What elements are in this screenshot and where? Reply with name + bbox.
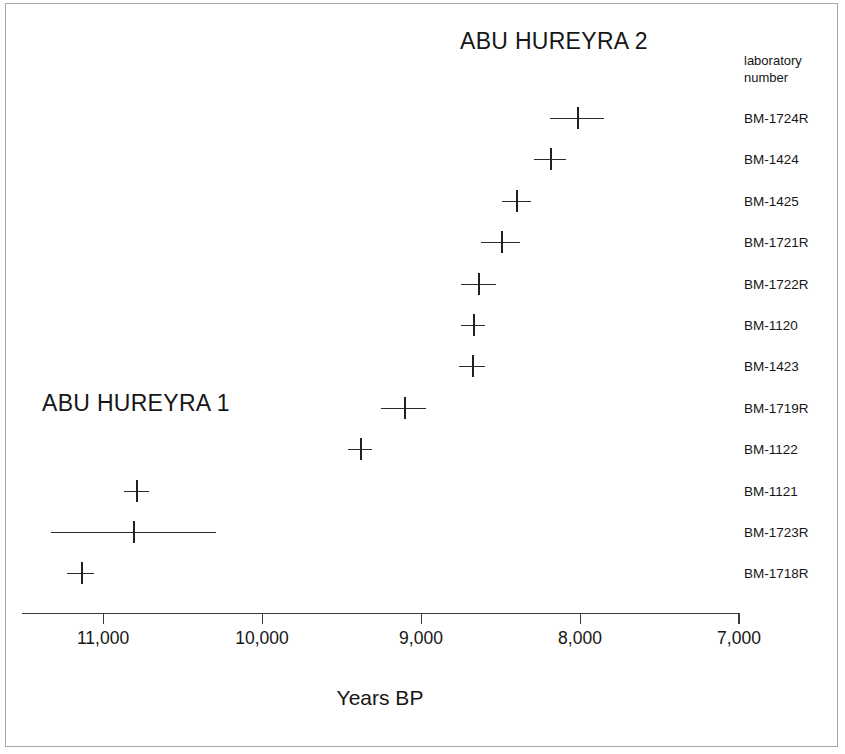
laboratory-number-label: BM-1121 bbox=[744, 483, 798, 498]
laboratory-number-label: BM-1722R bbox=[744, 276, 809, 291]
date-centre-tick bbox=[516, 190, 518, 212]
laboratory-number-label: BM-1718R bbox=[744, 566, 809, 581]
x-axis-tick bbox=[739, 613, 740, 624]
laboratory-number-label: BM-1120 bbox=[744, 318, 798, 333]
x-axis-tick-label: 11,000 bbox=[77, 628, 129, 649]
date-centre-tick bbox=[577, 107, 579, 129]
column-header-line-2: number bbox=[744, 69, 802, 86]
date-centre-tick bbox=[360, 438, 362, 460]
date-centre-tick bbox=[478, 273, 480, 295]
laboratory-number-column-header: laboratory number bbox=[744, 52, 802, 86]
laboratory-number-label: BM-1423 bbox=[744, 359, 799, 374]
plot-area: ABU HUREYRA 2 ABU HUREYRA 1 laboratory n… bbox=[0, 0, 845, 754]
date-centre-tick bbox=[81, 562, 83, 584]
x-axis-tick bbox=[103, 613, 104, 624]
x-axis-title: Years BP bbox=[0, 686, 760, 710]
x-axis-tick-label: 8,000 bbox=[558, 628, 602, 649]
laboratory-number-label: BM-1723R bbox=[744, 525, 809, 540]
date-centre-tick bbox=[136, 480, 138, 502]
column-header-line-1: laboratory bbox=[744, 52, 802, 69]
laboratory-number-label: BM-1724R bbox=[744, 111, 809, 126]
date-centre-tick bbox=[133, 521, 135, 543]
date-centre-tick bbox=[550, 148, 552, 170]
x-axis-tick-label: 7,000 bbox=[717, 628, 761, 649]
x-axis-tick-label: 10,000 bbox=[235, 628, 289, 649]
laboratory-number-label: BM-1425 bbox=[744, 193, 799, 208]
x-axis-tick bbox=[262, 613, 263, 624]
laboratory-number-label: BM-1721R bbox=[744, 235, 809, 250]
laboratory-number-label: BM-1424 bbox=[744, 152, 799, 167]
radiocarbon-date-figure: ABU HUREYRA 2 ABU HUREYRA 1 laboratory n… bbox=[0, 0, 845, 754]
x-axis-tick bbox=[580, 613, 581, 624]
phase-label-abu-hureyra-2: ABU HUREYRA 2 bbox=[460, 28, 648, 55]
date-centre-tick bbox=[404, 397, 406, 419]
laboratory-number-label: BM-1719R bbox=[744, 400, 809, 415]
date-centre-tick bbox=[501, 231, 503, 253]
phase-label-abu-hureyra-1: ABU HUREYRA 1 bbox=[42, 390, 230, 417]
x-axis-line bbox=[22, 613, 739, 614]
date-centre-tick bbox=[473, 314, 475, 336]
laboratory-number-label: BM-1122 bbox=[744, 442, 798, 457]
date-centre-tick bbox=[472, 355, 474, 377]
x-axis-tick bbox=[421, 613, 422, 624]
x-axis-tick-label: 9,000 bbox=[399, 628, 443, 649]
